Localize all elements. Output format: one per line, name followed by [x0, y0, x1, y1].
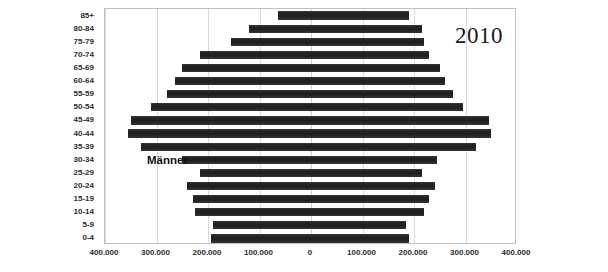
- x-tick-label: 400.000: [502, 248, 531, 257]
- x-tick-label: 100.000: [244, 248, 273, 257]
- bar-maenner: [213, 221, 311, 229]
- bar-frauen: [311, 51, 429, 59]
- bar-row: [105, 234, 515, 242]
- x-tick-label: 0: [308, 248, 312, 257]
- bar-maenner: [200, 51, 311, 59]
- x-tick-label: 300.000: [450, 248, 479, 257]
- y-tick-label: 80-84: [74, 23, 94, 32]
- bar-frauen: [311, 221, 406, 229]
- y-tick-label: 55-59: [74, 89, 94, 98]
- bar-row: [105, 129, 515, 137]
- bar-frauen: [311, 90, 453, 98]
- y-tick-label: 10-14: [74, 207, 94, 216]
- bar-frauen: [311, 103, 463, 111]
- bar-frauen: [311, 64, 440, 72]
- bar-frauen: [311, 234, 409, 242]
- plot-area: 2010 Männer Frauen: [104, 8, 516, 244]
- bar-maenner: [167, 90, 311, 98]
- x-tick-label: 300.000: [141, 248, 170, 257]
- bar-row: [105, 221, 515, 229]
- x-axis-value-labels: 400.000300.000200.000100.0000100.000200.…: [0, 248, 608, 264]
- bar-frauen: [311, 116, 489, 124]
- bar-frauen: [311, 11, 409, 19]
- bar-maenner: [128, 129, 311, 137]
- bar-frauen: [311, 129, 491, 137]
- bar-maenner: [182, 156, 311, 164]
- y-tick-label: 30-34: [74, 154, 94, 163]
- bar-row: [105, 195, 515, 203]
- bar-maenner: [193, 195, 311, 203]
- year-annotation: 2010: [455, 23, 503, 49]
- y-tick-label: 45-49: [74, 115, 94, 124]
- y-tick-label: 65-69: [74, 63, 94, 72]
- bar-row: [105, 103, 515, 111]
- bar-frauen: [311, 77, 445, 85]
- bar-maenner: [195, 208, 311, 216]
- bar-maenner: [131, 116, 311, 124]
- y-tick-label: 5-9: [82, 220, 94, 229]
- population-pyramid-chart: 85+80-8475-7970-7465-6960-6455-5950-5445…: [0, 0, 608, 272]
- bar-frauen: [311, 208, 424, 216]
- bar-row: [105, 11, 515, 19]
- x-tick-label: 400.000: [90, 248, 119, 257]
- bar-maenner: [211, 234, 311, 242]
- series-label-maenner: Männer: [147, 154, 188, 166]
- bar-row: [105, 169, 515, 177]
- bar-frauen: [311, 182, 435, 190]
- y-tick-label: 40-44: [74, 128, 94, 137]
- y-tick-label: 35-39: [74, 141, 94, 150]
- bar-maenner: [151, 103, 311, 111]
- bar-maenner: [249, 25, 311, 33]
- y-tick-label: 85+: [80, 10, 94, 19]
- bar-frauen: [311, 156, 437, 164]
- bar-maenner: [278, 11, 311, 19]
- y-tick-label: 20-24: [74, 181, 94, 190]
- y-tick-label: 70-74: [74, 49, 94, 58]
- x-tick-label: 200.000: [399, 248, 428, 257]
- bar-row: [105, 208, 515, 216]
- bar-frauen: [311, 169, 422, 177]
- bar-maenner: [141, 143, 311, 151]
- bar-row: [105, 25, 515, 33]
- bar-row: [105, 143, 515, 151]
- bar-frauen: [311, 25, 422, 33]
- y-tick-label: 75-79: [74, 36, 94, 45]
- bar-row: [105, 64, 515, 72]
- bar-row: [105, 77, 515, 85]
- bar-row: [105, 38, 515, 46]
- y-tick-label: 25-29: [74, 167, 94, 176]
- bar-maenner: [231, 38, 311, 46]
- bar-maenner: [187, 182, 311, 190]
- y-tick-label: 0-4: [82, 233, 94, 242]
- bar-frauen: [311, 143, 476, 151]
- y-tick-label: 50-54: [74, 102, 94, 111]
- bar-maenner: [182, 64, 311, 72]
- bar-row: [105, 182, 515, 190]
- y-axis-category-labels: 85+80-8475-7970-7465-6960-6455-5950-5445…: [0, 8, 99, 244]
- bar-row: [105, 116, 515, 124]
- bar-frauen: [311, 195, 429, 203]
- y-tick-label: 60-64: [74, 76, 94, 85]
- bar-frauen: [311, 38, 424, 46]
- bar-maenner: [175, 77, 311, 85]
- bar-maenner: [200, 169, 311, 177]
- x-tick-label: 200.000: [193, 248, 222, 257]
- bar-rows: [105, 9, 515, 243]
- y-tick-label: 15-19: [74, 194, 94, 203]
- bar-row: [105, 51, 515, 59]
- x-tick-label: 100.000: [347, 248, 376, 257]
- bar-row: [105, 90, 515, 98]
